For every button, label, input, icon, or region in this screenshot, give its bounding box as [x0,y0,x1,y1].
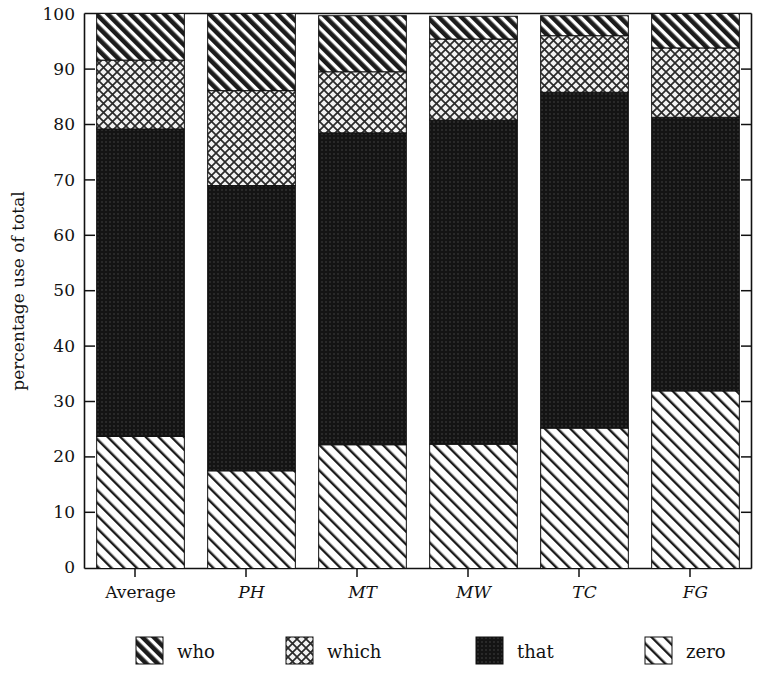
bar-segment-which [541,36,629,93]
bar-segment-zero [97,436,185,568]
bar-segment-who [541,16,629,36]
legend-label-who: who [177,641,215,662]
bar-segment-who [208,14,296,91]
y-axis-title: percentage use of total [8,191,28,390]
bar-segment-who [97,14,185,61]
bar-segment-which [319,72,407,133]
bar-segment-who [319,16,407,72]
x-axis-label-mt: MT [347,582,378,602]
x-axis-category-labels: AveragePHMTMWTCFG [104,582,708,602]
legend-swatch-that [476,637,503,664]
x-axis-label-average: Average [104,582,175,602]
chart-svg: 100 90 80 70 60 50 40 30 20 10 0 percent… [0,0,760,683]
x-axis-label-ph: PH [237,582,265,602]
legend-swatch-which [286,637,313,664]
bar-segment-zero [430,444,518,568]
bars-layer [97,14,740,569]
bar-group [319,16,407,569]
stacked-bar-chart: 100 90 80 70 60 50 40 30 20 10 0 percent… [0,0,760,683]
x-axis-label-tc: TC [572,582,596,602]
y-tick-label-60: 60 [53,225,75,245]
bar-group [541,16,629,569]
y-axis-tick-labels: 100 90 80 70 60 50 40 30 20 10 0 [43,4,75,577]
y-tick-label-40: 40 [53,336,75,356]
legend-swatch-who [136,637,163,664]
bar-segment-that [319,133,407,445]
bar-segment-which [97,60,185,129]
bar-segment-who [430,16,518,39]
legend-label-zero: zero [686,641,726,662]
bar-group [652,14,740,569]
y-tick-label-100: 100 [43,4,75,24]
bar-segment-that [97,129,185,436]
bar-segment-zero [541,428,629,568]
bar-segment-which [430,39,518,120]
x-axis-label-mw: MW [455,582,492,602]
legend: who which that zero [136,637,726,664]
bar-segment-zero [652,391,740,569]
bar-group [97,14,185,569]
y-tick-label-70: 70 [53,170,75,190]
bar-segment-zero [319,445,407,569]
y-tick-label-80: 80 [53,114,75,134]
y-tick-label-20: 20 [53,446,75,466]
bar-segment-which [652,48,740,117]
legend-label-which: which [327,641,382,662]
y-tick-label-50: 50 [53,280,75,300]
y-tick-label-0: 0 [64,557,75,577]
bar-segment-that [208,186,296,471]
bar-segment-which [208,91,296,186]
y-tick-label-30: 30 [53,391,75,411]
bar-segment-that [430,120,518,444]
bar-segment-that [541,92,629,428]
x-axis-ticks [135,569,690,578]
bar-group [430,16,518,568]
y-tick-label-90: 90 [53,59,75,79]
y-tick-label-10: 10 [53,502,75,522]
bar-segment-zero [208,471,296,569]
legend-label-that: that [517,641,555,662]
x-axis-label-fg: FG [682,582,708,602]
bar-segment-that [652,117,740,391]
legend-swatch-zero [645,637,672,664]
bar-group [208,14,296,569]
bar-segment-who [652,14,740,48]
